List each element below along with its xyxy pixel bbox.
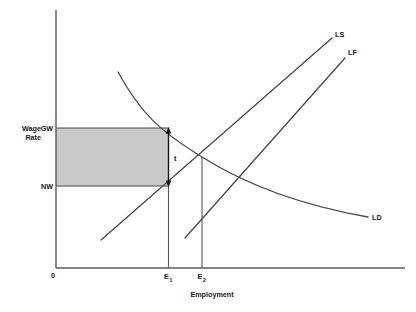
curve-label-ls: LS <box>335 30 344 39</box>
y-tick-label-nw: NW <box>41 182 53 191</box>
x-tick-label-e1: E <box>164 272 169 281</box>
x-axis-title: Employment <box>190 290 234 299</box>
y-axis-title-line1: Wage <box>22 124 41 133</box>
curve-label-lf: LF <box>348 48 357 57</box>
tax-revenue-shaded-rectangle <box>56 128 168 186</box>
origin-label: 0 <box>51 271 55 280</box>
x-tick-label-e2-subscript: 2 <box>203 277 206 283</box>
y-tick-label-gw: GW <box>41 124 54 133</box>
economics-diagram: Wage Rate GW NW 0 E 1 E 2 LS LF LD t Emp… <box>0 0 416 312</box>
x-tick-label-e1-subscript: 1 <box>170 277 173 283</box>
x-tick-label-e2: E <box>198 272 203 281</box>
y-axis-title-line2: Rate <box>25 133 41 142</box>
curve-label-ld: LD <box>372 213 382 222</box>
tax-wedge-labour-market-chart: Wage Rate GW NW 0 E 1 E 2 LS LF LD t Emp… <box>0 0 416 312</box>
